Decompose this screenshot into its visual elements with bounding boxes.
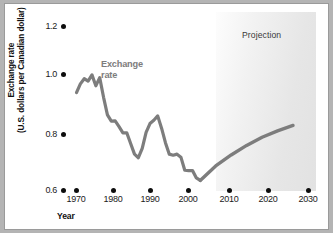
exchange-rate-line-chart <box>5 4 329 230</box>
historical-series-line <box>77 75 201 181</box>
plot-area: Exchange rate (U.S. dollars per Canadian… <box>5 4 329 230</box>
projection-series-line <box>200 125 293 180</box>
chart-figure: Exchange rate (U.S. dollars per Canadian… <box>4 3 329 230</box>
